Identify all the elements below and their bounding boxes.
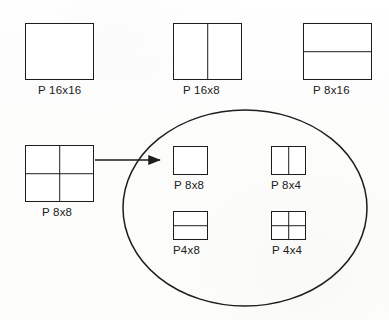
partition-label-p4x8-sub: P4x8: [173, 244, 200, 256]
partition-box-p16x8: [173, 23, 242, 80]
partition-label-p8x4-sub: P 8x4: [271, 179, 301, 191]
horizontal-divider: [304, 51, 371, 53]
diagram-canvas: P 16x16 P 16x8 P 8x16 P 8x8 P 8x8 P 8x4: [0, 0, 389, 320]
partition-label-p4x4-sub: P 4x4: [272, 244, 302, 256]
partition-box-p4x4-sub: [271, 211, 306, 240]
partition-box-p8x8-source: [25, 145, 94, 202]
horizontal-divider: [174, 225, 207, 227]
vertical-divider: [288, 147, 290, 174]
partition-label-p8x8-source: P 8x8: [42, 206, 72, 218]
partition-box-p8x4-sub: [271, 146, 306, 175]
partition-label-p16x16: P 16x16: [38, 84, 81, 96]
partition-label-p8x16: P 8x16: [313, 84, 350, 96]
partition-box-p16x16: [25, 23, 94, 80]
partition-label-p16x8: P 16x8: [183, 84, 220, 96]
partition-box-p8x8-sub: [173, 146, 208, 175]
partition-label-p8x8-sub: P 8x8: [174, 179, 204, 191]
partition-box-p4x8-sub: [173, 211, 208, 240]
horizontal-divider: [272, 225, 305, 227]
partition-box-p8x16: [303, 23, 372, 80]
horizontal-divider: [26, 173, 93, 175]
vertical-divider: [207, 24, 209, 79]
